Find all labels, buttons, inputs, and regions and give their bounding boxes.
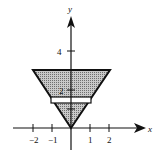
x-tick-label: 1 xyxy=(88,135,93,145)
y-tick-label: 4 xyxy=(57,47,62,57)
x-tick-label: 2 xyxy=(107,135,112,145)
x-tick-label: −2 xyxy=(29,135,39,145)
y-tick-label: 2 xyxy=(59,86,64,96)
x-axis-label: x xyxy=(147,124,152,134)
y-axis-label: y xyxy=(67,4,72,14)
x-axis: −2 −1 1 2 x xyxy=(13,123,152,145)
region-figure: −2 −1 1 2 x 4 2 y xyxy=(0,0,157,156)
x-tick-label: −1 xyxy=(48,135,58,145)
